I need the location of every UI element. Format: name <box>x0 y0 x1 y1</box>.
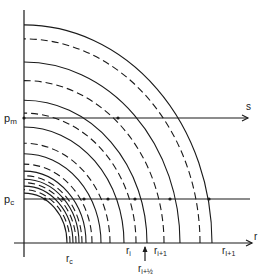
intersection-points <box>22 116 210 200</box>
radius-label: rI+1 <box>222 245 235 257</box>
pc-intersection-point <box>106 197 109 200</box>
pc-label: pc <box>4 193 14 207</box>
nested-circle-diagram: pm pc s r rcriri+1rI+1ri+½ <box>0 0 263 277</box>
axes <box>14 10 252 257</box>
concentric-arcs <box>24 25 212 243</box>
solid-arc <box>24 179 79 243</box>
solid-arc <box>24 100 147 243</box>
radius-labels: rcriri+1rI+1ri+½ <box>66 245 235 275</box>
solid-arc <box>24 25 212 243</box>
dashed-arc <box>24 39 200 243</box>
pc-intersection-point <box>61 197 64 200</box>
solid-arc <box>24 186 73 243</box>
radius-label: ri <box>126 245 131 257</box>
pc-intersection-point <box>43 197 46 200</box>
pc-intersection-point <box>168 197 171 200</box>
half-step-arrowhead-icon <box>143 246 148 252</box>
pm-intersection-point <box>22 116 25 119</box>
dashed-arc <box>24 81 164 243</box>
pc-intersection-point <box>82 197 85 200</box>
half-step-label: ri+½ <box>138 263 153 275</box>
pc-intersection-point <box>207 197 210 200</box>
radius-label: rc <box>66 253 73 265</box>
dashed-arc <box>24 176 82 243</box>
dashed-arc <box>24 143 110 243</box>
s-label: s <box>246 101 251 112</box>
dashed-arc <box>24 164 92 243</box>
pm-intersection-point <box>116 116 119 119</box>
pc-intersection-point <box>133 197 136 200</box>
radius-label: ri+1 <box>154 245 167 257</box>
pm-label: pm <box>4 112 17 126</box>
solid-arc <box>24 171 86 243</box>
r-axis-label: r <box>254 231 258 242</box>
